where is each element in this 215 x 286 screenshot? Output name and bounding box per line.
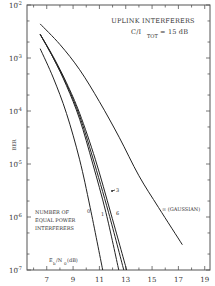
legend-line-1: NUMBER OF xyxy=(35,209,69,215)
xlabel-n: /N xyxy=(56,257,63,263)
cit-suffix: = 15 dB xyxy=(160,28,188,36)
y-tick-label-exponent: -5 xyxy=(17,159,22,165)
series-label-0: 0 xyxy=(87,208,90,214)
y-tick-label-exponent: -4 xyxy=(17,106,22,112)
y-tick-label-exponent: -7 xyxy=(17,265,22,271)
chart: 10-210-310-410-510-610-7 791113151719 BE… xyxy=(0,0,215,286)
x-tick-label: 9 xyxy=(71,276,75,284)
x-tick-label: 11 xyxy=(95,276,104,284)
legend-title: NUMBER OF EQUAL POWER INTERFERERS xyxy=(35,209,76,231)
y-tick-label-exponent: -6 xyxy=(17,212,22,218)
series-label-gaussian: ∞ (GAUSSIAN) xyxy=(162,206,200,212)
legend-line-3: INTERFERERS xyxy=(35,225,74,231)
curves xyxy=(40,24,182,270)
series-line-6 xyxy=(40,34,126,270)
x-axis-label: E b /N 0 (dB) xyxy=(49,257,78,266)
chart-subtitle: C/I TOT = 15 dB xyxy=(131,28,188,39)
xlabel-unit: (dB) xyxy=(67,257,78,263)
series-label-6: 6 xyxy=(116,210,119,216)
x-tick-label: 15 xyxy=(148,276,157,284)
x-tick-label: 13 xyxy=(121,276,130,284)
x-tick-label: 17 xyxy=(174,276,183,284)
series-3-pointer-dot xyxy=(111,190,113,192)
legend-line-2: EQUAL POWER xyxy=(35,217,76,223)
y-axis-label: BER xyxy=(11,139,17,150)
chart-title: UPLINK INTERFERERS xyxy=(111,17,194,25)
x-tick-label: 19 xyxy=(200,276,209,284)
y-tick-label-exponent: -2 xyxy=(17,0,22,6)
x-tick-label: 7 xyxy=(45,276,49,284)
cit-sub: TOT xyxy=(147,33,158,39)
y-ticks: 10-210-310-410-510-610-7 xyxy=(9,0,210,275)
x-ticks: 791113151719 xyxy=(34,5,210,284)
series-label-3: 3 xyxy=(116,187,119,193)
cit-prefix: C/I xyxy=(131,28,142,36)
y-tick-label-exponent: -3 xyxy=(17,53,22,59)
series-label-1: 1 xyxy=(101,211,104,217)
